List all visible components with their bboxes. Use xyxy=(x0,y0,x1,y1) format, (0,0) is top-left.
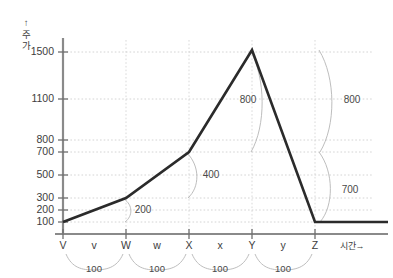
x-interval-braces: 100 100 100 100 xyxy=(66,254,312,274)
xtick-label-x: x xyxy=(217,239,223,251)
annotation-arc-700 xyxy=(319,152,330,222)
ytick-label-1100: 1100 xyxy=(31,92,54,104)
annotation-arc-800-drop xyxy=(319,50,332,152)
annotation-label-200: 200 xyxy=(135,204,152,215)
ytick-label-500: 500 xyxy=(36,168,54,180)
y-axis-title-char-2: 가 xyxy=(22,40,31,51)
interval-label-V-W: 100 xyxy=(86,263,102,274)
annotation-label-700: 700 xyxy=(342,184,359,195)
ytick-label-700: 700 xyxy=(36,145,54,157)
annotation-label-800-drop: 800 xyxy=(344,94,361,105)
vertical-gridlines xyxy=(63,40,315,234)
y-axis-arrow-icon: ↑ xyxy=(24,17,29,28)
interval-label-W-X: 100 xyxy=(149,263,165,274)
xtick-label-y: y xyxy=(280,239,286,251)
stock-price-line xyxy=(63,50,388,222)
annotation-label-400: 400 xyxy=(203,169,220,180)
y-axis-title: ↑ 주 가 xyxy=(22,17,31,51)
x-axis-title: 시간→ xyxy=(340,241,365,251)
y-axis-tick-labels: 1500 1100 800 700 500 300 200 100 xyxy=(31,45,55,227)
ytick-label-100: 100 xyxy=(36,215,54,227)
ytick-label-200: 200 xyxy=(36,203,54,215)
y-axis-title-char-1: 주 xyxy=(22,29,31,40)
xtick-label-W: W xyxy=(121,239,131,251)
xtick-label-Z: Z xyxy=(312,239,319,251)
stock-price-line-chart: 1500 1100 800 700 500 300 200 100 ↑ 주 가 … xyxy=(0,0,393,278)
xtick-label-Y: Y xyxy=(248,239,255,251)
annotation-arc-400 xyxy=(187,153,197,198)
interval-label-Y-Z: 100 xyxy=(275,263,291,274)
xtick-label-V: V xyxy=(59,239,66,251)
xtick-label-X: X xyxy=(185,239,192,251)
ytick-label-800: 800 xyxy=(36,133,54,145)
value-change-annotations: 200 400 800 800 700 xyxy=(124,50,361,222)
chart-canvas: 1500 1100 800 700 500 300 200 100 ↑ 주 가 … xyxy=(0,0,393,278)
annotation-label-800-rise: 800 xyxy=(240,94,257,105)
ytick-label-300: 300 xyxy=(36,191,54,203)
ytick-label-1500: 1500 xyxy=(31,45,55,57)
annotation-arc-200 xyxy=(124,199,131,222)
xtick-label-w: w xyxy=(152,239,161,251)
xtick-label-v: v xyxy=(91,239,97,251)
interval-label-X-Y: 100 xyxy=(212,263,228,274)
horizontal-gridlines xyxy=(63,52,372,222)
x-axis-tick-labels: V v W w X x Y y Z xyxy=(59,239,318,251)
